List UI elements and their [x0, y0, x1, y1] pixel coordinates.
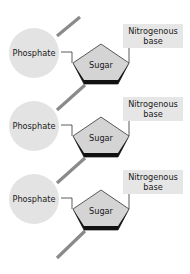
phosphate-sugar-connector	[61, 52, 72, 63]
sugar-label: Sugar	[89, 60, 114, 70]
sugar-label: Sugar	[89, 133, 114, 143]
backbone-top	[57, 17, 80, 36]
backbone-1-2	[57, 85, 85, 110]
nucleotide-unit-1: Phosphate Sugar Nitrogenous base	[9, 24, 183, 84]
sugar-label: Sugar	[89, 206, 114, 216]
base-label-line2: base	[143, 36, 163, 46]
base-label-line1: Nitrogenous	[128, 99, 178, 109]
backbone-2-3	[57, 158, 85, 183]
base-label-line1: Nitrogenous	[128, 26, 178, 36]
phosphate-label: Phosphate	[12, 194, 55, 204]
base-label-line2: base	[143, 182, 163, 192]
phosphate-sugar-connector	[61, 198, 72, 209]
phosphate-sugar-connector	[61, 125, 72, 136]
backbone-bottom	[57, 231, 85, 258]
nucleotide-chain-diagram: Phosphate Sugar Nitrogenous base Phospha…	[0, 0, 190, 274]
phosphate-label: Phosphate	[12, 48, 55, 58]
base-label-line2: base	[143, 109, 163, 119]
base-label-line1: Nitrogenous	[128, 172, 178, 182]
phosphate-label: Phosphate	[12, 121, 55, 131]
nucleotide-unit-2: Phosphate Sugar Nitrogenous base	[9, 97, 183, 157]
nucleotide-unit-3: Phosphate Sugar Nitrogenous base	[9, 170, 183, 230]
